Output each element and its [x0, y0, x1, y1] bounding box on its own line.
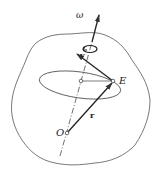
path-center-point [79, 79, 83, 83]
point-E [111, 79, 115, 83]
E-label: E [118, 75, 127, 86]
angular-velocity-vector [92, 15, 99, 42]
v-label: v [79, 50, 85, 60]
r-label: r [90, 110, 95, 120]
O-label: O [56, 127, 64, 138]
point-O [65, 131, 69, 135]
rigid-body-rotation-diagram: ω v E O r [0, 0, 160, 175]
omega-label: ω [76, 10, 84, 20]
